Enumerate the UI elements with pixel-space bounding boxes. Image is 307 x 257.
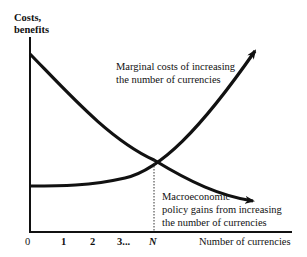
y-axis-label-1: Costs, [14, 12, 41, 24]
x-tick-3: 3... [117, 236, 130, 247]
x-axis-label: Number of currencies [199, 236, 291, 248]
costs-label-1: Marginal costs of increasing [116, 61, 235, 73]
chart: Costs, benefits Marginal costs of increa… [0, 0, 307, 257]
gains-label-1: Macroeconomic [162, 191, 230, 203]
x-tick-1: 1 [61, 236, 66, 247]
y-axis-label-2: benefits [14, 24, 49, 36]
gains-label-3: the number of currencies [162, 217, 267, 229]
x-tick-0: 0 [25, 236, 30, 247]
x-tick-2: 2 [90, 236, 95, 247]
gains-label-2: policy gains from increasing [162, 204, 282, 216]
costs-label-2: the number of currencies [116, 74, 221, 86]
x-tick-n: N [149, 236, 157, 247]
